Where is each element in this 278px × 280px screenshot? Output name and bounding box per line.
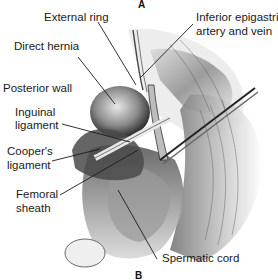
label-posterior-wall: Posterior wall xyxy=(3,82,72,95)
label-coopers-line1: Cooper's xyxy=(7,145,53,158)
anatomical-illustration: A External ring Inferior epigastric arte… xyxy=(0,0,278,280)
label-inferior-epigastric-line2: artery and vein xyxy=(196,25,272,38)
label-direct-hernia: Direct hernia xyxy=(14,40,79,53)
label-inguinal-line1: Inguinal xyxy=(15,106,55,119)
label-femoral-line2: sheath xyxy=(16,202,51,215)
panel-label-a: A xyxy=(138,0,145,10)
label-inferior-epigastric-line1: Inferior epigastric xyxy=(196,11,278,24)
label-inguinal-line2: ligament xyxy=(15,119,58,132)
label-spermatic-cord: Spermatic cord xyxy=(162,252,239,265)
label-external-ring: External ring xyxy=(44,11,109,24)
label-coopers-line2: ligament xyxy=(7,159,50,172)
panel-label-b: B xyxy=(135,270,142,280)
label-femoral-line1: Femoral xyxy=(16,188,58,201)
